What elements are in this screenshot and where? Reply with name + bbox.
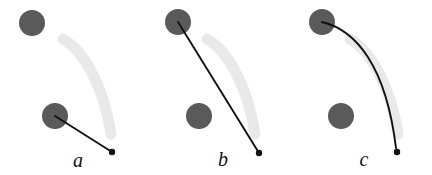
- endpoint-dot: [394, 149, 400, 155]
- reference-arc: [207, 39, 255, 134]
- panel-a: [19, 10, 115, 155]
- figure-container: abc: [0, 0, 432, 175]
- endpoint-dot: [256, 150, 262, 156]
- panel-label-a: a: [73, 149, 83, 171]
- lower-circle: [328, 103, 354, 129]
- panel-label-b: b: [218, 148, 228, 170]
- panels-group: [19, 9, 400, 156]
- figure-canvas: abc: [0, 0, 432, 175]
- panel-b: [165, 9, 262, 156]
- panel-c: [309, 9, 400, 155]
- reference-arc: [63, 39, 111, 134]
- lower-circle: [186, 103, 212, 129]
- panel-label-c: c: [360, 148, 369, 170]
- panel-labels-group: abc: [73, 148, 369, 171]
- upper-circle: [19, 10, 45, 36]
- endpoint-dot: [109, 149, 115, 155]
